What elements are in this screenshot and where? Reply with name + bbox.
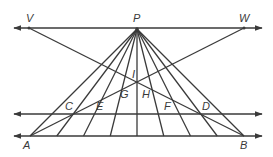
point-w xyxy=(243,27,246,30)
points-layer xyxy=(28,27,246,31)
ray-from-p-1 xyxy=(30,29,137,136)
label-b: B xyxy=(240,139,247,151)
label-w: W xyxy=(239,12,251,24)
label-e: E xyxy=(96,100,104,112)
label-h: H xyxy=(142,88,150,100)
label-v: V xyxy=(26,12,35,24)
geometry-diagram: VPWIGHCEFDAB xyxy=(0,0,273,157)
ray-from-p-3 xyxy=(84,29,138,136)
ray-from-p-9 xyxy=(137,29,244,136)
ray-from-p-6 xyxy=(137,29,164,136)
label-a: A xyxy=(22,139,30,151)
point-v xyxy=(28,27,31,30)
label-c: C xyxy=(65,100,73,112)
ray-from-p-2 xyxy=(57,29,137,136)
lines-layer xyxy=(14,28,262,136)
ray-from-p-8 xyxy=(137,29,217,136)
label-p: P xyxy=(133,12,141,24)
label-f: F xyxy=(164,100,172,112)
ray-from-p-4 xyxy=(110,29,137,136)
label-g: G xyxy=(120,88,129,100)
label-d: D xyxy=(202,100,210,112)
point-p xyxy=(135,27,139,31)
ray-from-p-7 xyxy=(137,29,191,136)
label-i: I xyxy=(132,68,135,80)
